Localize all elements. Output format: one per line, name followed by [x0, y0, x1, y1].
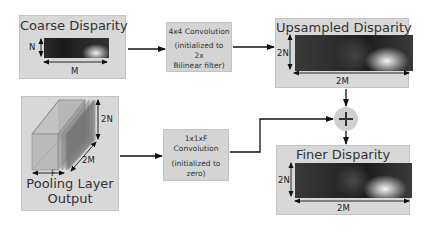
pooling-volume-icon [32, 100, 95, 170]
connectors-layer [0, 0, 440, 232]
arrow-refineconv-to-sum [230, 119, 333, 152]
